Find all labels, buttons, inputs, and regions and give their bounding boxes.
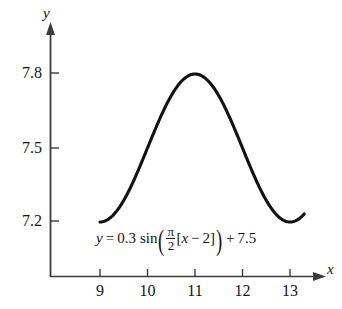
equation-fraction: π 2 (166, 225, 175, 253)
equation-annotation: y = 0.3 sin ( π 2 [ x − 2 ] ) + 7.5 (96, 225, 256, 253)
x-tick-label-10: 10 (133, 283, 163, 299)
x-tick-label-13: 13 (275, 283, 305, 299)
equation-plus: + (226, 231, 234, 246)
figure-canvas: y x 7.8 7.5 7.2 9 10 11 12 13 y = 0.3 si… (0, 0, 342, 309)
sine-curve (100, 74, 304, 222)
y-axis-label: y (43, 6, 50, 21)
y-tick-label-7-8: 7.8 (0, 65, 42, 81)
y-tick-label-7-5: 7.5 (0, 140, 42, 156)
equation-vertical-shift: 7.5 (238, 231, 257, 246)
x-axis-ticks (100, 269, 290, 277)
equation-fraction-denominator: 2 (167, 239, 176, 252)
equation-lhs: y (96, 231, 103, 246)
equation-minus: − (191, 231, 199, 246)
equation-phase: 2 (203, 231, 211, 246)
equation-function: sin (140, 231, 158, 246)
y-tick-label-7-2: 7.2 (0, 213, 42, 229)
plot-area (0, 0, 342, 309)
x-tick-label-9: 9 (85, 283, 115, 299)
equation-close-paren: ) (216, 228, 222, 251)
equation-amplitude: 0.3 (117, 231, 136, 246)
equation-variable: x (181, 231, 188, 246)
x-tick-label-11: 11 (180, 283, 210, 299)
equation-bracket-close: ] (210, 231, 215, 246)
y-axis-ticks (51, 73, 60, 221)
x-axis-label: x (327, 262, 334, 277)
x-axis (51, 272, 327, 281)
y-axis (46, 22, 55, 277)
equation-fraction-numerator: π (167, 225, 176, 238)
x-tick-label-12: 12 (228, 283, 258, 299)
equation-equals: = (106, 231, 114, 246)
equation-open-paren: ( (158, 228, 164, 251)
